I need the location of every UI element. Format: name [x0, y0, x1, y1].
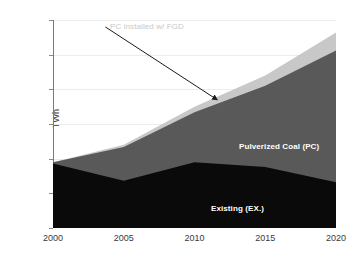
area-series-group	[53, 20, 336, 228]
annotation-label-fgd: PC installed w/ FGD	[110, 22, 184, 31]
x-tick-label: 2005	[102, 233, 146, 243]
series-label-pulverized-coal: Pulverized Coal (PC)	[239, 142, 319, 151]
x-tick-label: 2015	[243, 233, 287, 243]
x-tick-label: 2010	[173, 233, 217, 243]
series-label-existing: Existing (EX.)	[211, 204, 264, 213]
y-tick-mark	[49, 228, 53, 229]
plot-area: TWh 050100150200250300 Pulverized Coal (…	[53, 20, 336, 228]
x-tick-label: 2020	[314, 233, 351, 243]
x-tick-label: 2000	[31, 233, 75, 243]
